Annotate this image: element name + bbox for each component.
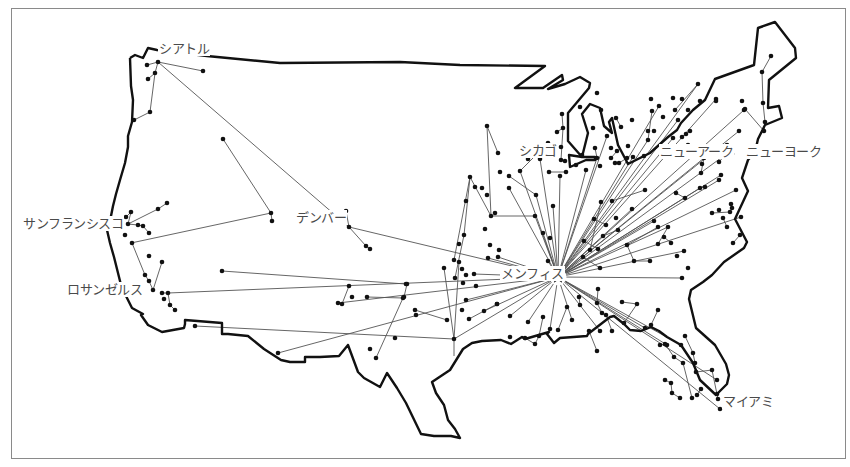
city-node — [604, 223, 609, 228]
route-line — [223, 139, 271, 213]
city-node — [405, 282, 410, 287]
city-nodes — [123, 54, 774, 412]
route-line — [561, 128, 563, 160]
city-node — [584, 168, 589, 173]
city-node — [168, 303, 173, 308]
city-node — [464, 298, 469, 303]
city-node — [581, 255, 586, 260]
city-node — [691, 351, 696, 356]
city-node — [690, 396, 695, 401]
city-node — [730, 206, 735, 211]
city-node — [276, 351, 281, 356]
city-node — [710, 211, 715, 216]
city-node — [141, 224, 146, 229]
city-node — [578, 105, 583, 110]
us-outline — [107, 22, 796, 438]
city-node — [675, 254, 680, 259]
city-node — [717, 208, 722, 213]
route-line — [487, 126, 491, 216]
city-node — [559, 145, 564, 150]
city-node — [715, 392, 720, 397]
city-node — [221, 137, 226, 142]
city-node — [482, 309, 487, 314]
city-node — [156, 207, 161, 212]
city-node — [537, 334, 542, 339]
city-node — [561, 126, 566, 131]
city-node — [761, 101, 766, 106]
city-node — [480, 186, 485, 191]
city-node — [270, 219, 275, 224]
city-node — [526, 320, 531, 325]
city-node — [165, 201, 170, 206]
city-node — [508, 335, 513, 340]
route-line — [349, 227, 366, 246]
city-node — [445, 318, 450, 323]
city-node — [699, 387, 704, 392]
city-node — [595, 301, 600, 306]
city-node — [596, 287, 601, 292]
route-line — [762, 56, 771, 72]
route-line — [150, 73, 155, 112]
city-node — [632, 259, 637, 264]
city-node — [347, 225, 352, 230]
city-node — [680, 276, 685, 281]
city-node — [498, 170, 503, 175]
city-node — [698, 99, 703, 104]
city-node — [147, 279, 152, 284]
city-node — [737, 129, 742, 134]
city-node — [153, 71, 158, 76]
city-node — [622, 321, 627, 326]
city-node — [598, 266, 603, 271]
city-node — [613, 161, 618, 166]
route-line — [648, 111, 652, 140]
city-node — [364, 244, 369, 249]
route-line — [558, 307, 567, 330]
city-node — [600, 311, 605, 316]
city-node — [631, 155, 636, 160]
city-node — [563, 159, 568, 164]
city-node — [731, 241, 736, 246]
city-node — [564, 170, 569, 175]
route-line — [558, 277, 682, 278]
city-node — [617, 161, 622, 166]
city-node — [680, 97, 685, 102]
city-node — [546, 259, 551, 264]
city-node — [688, 129, 693, 134]
city-node — [643, 326, 648, 331]
city-node — [710, 368, 715, 373]
city-node — [604, 313, 609, 318]
route-line — [558, 176, 560, 277]
city-node — [577, 295, 582, 300]
city-node — [124, 215, 129, 220]
city-node — [541, 315, 546, 320]
city-node — [523, 336, 528, 341]
city-node — [662, 235, 667, 240]
city-node — [472, 272, 477, 277]
city-node — [635, 302, 640, 307]
city-node — [609, 146, 614, 151]
route-line — [153, 262, 162, 290]
route-line — [195, 326, 454, 339]
city-node — [671, 136, 676, 141]
city-node — [368, 347, 373, 352]
city-node — [193, 324, 198, 329]
city-node — [464, 199, 469, 204]
city-node — [769, 54, 774, 59]
route-line — [342, 286, 349, 304]
route-line — [685, 336, 693, 353]
city-node — [686, 266, 691, 271]
city-node — [672, 355, 677, 360]
city-node — [551, 204, 556, 209]
city-node — [615, 149, 620, 154]
city-node — [650, 109, 655, 114]
city-node — [728, 210, 733, 215]
city-node — [132, 118, 137, 123]
label-newark: ニューアーク — [659, 144, 734, 159]
city-node — [695, 393, 700, 398]
route-line — [558, 277, 720, 409]
city-node — [413, 308, 418, 313]
route-line — [131, 213, 271, 243]
city-node — [548, 327, 553, 332]
city-node — [269, 211, 274, 216]
city-node — [714, 99, 719, 104]
